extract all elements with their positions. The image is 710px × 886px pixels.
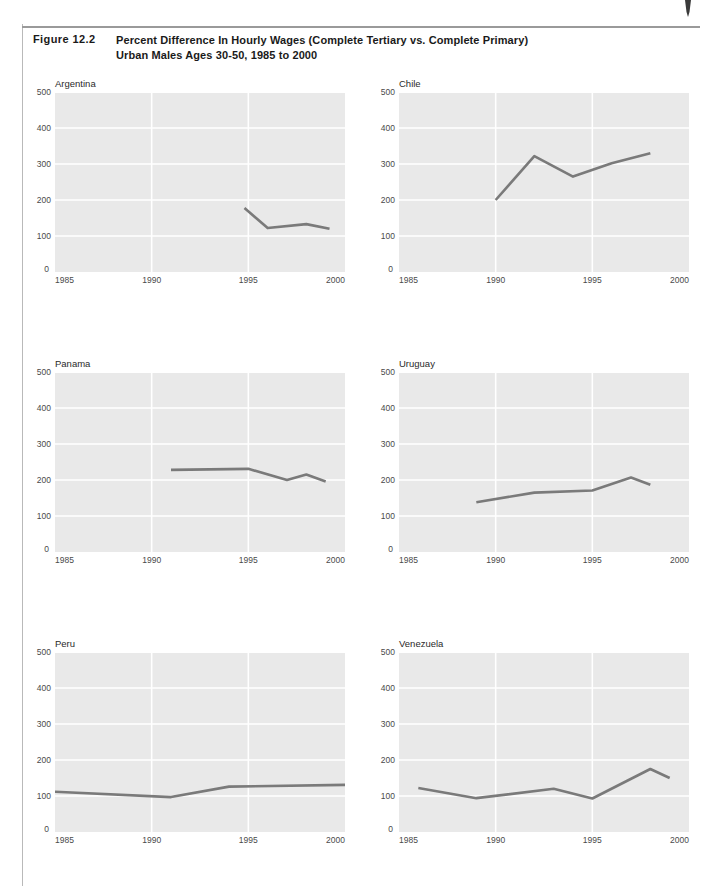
x-axis-tick-label: 1985 (55, 835, 74, 845)
y-axis-tick-label: 400 (381, 403, 395, 413)
chart-panel-title: Argentina (55, 78, 96, 89)
x-axis-tick-label: 2000 (326, 555, 345, 565)
x-axis-tick-label: 2000 (326, 275, 345, 285)
x-axis-tick-label: 1985 (399, 835, 418, 845)
plot-wrapper: 50040030020010001985199019952000 (29, 652, 351, 852)
y-axis-tick-label: 500 (37, 647, 51, 657)
page-corner-marker (683, 0, 693, 18)
x-axis-tick-label: 1985 (399, 275, 418, 285)
y-axis-tick-label: 200 (381, 755, 395, 765)
plot-area (55, 372, 345, 552)
plot-area (55, 652, 345, 832)
y-axis-tick-label: 400 (381, 683, 395, 693)
y-axis-tick-label: 400 (37, 123, 51, 133)
chart-panel-uruguay: Uruguay50040030020010001985199019952000 (373, 358, 695, 573)
x-axis-tick-label: 2000 (670, 835, 689, 845)
x-axis-tick-label: 1995 (239, 555, 258, 565)
plot-wrapper: 50040030020010001985199019952000 (373, 92, 695, 292)
chart-panel-title: Uruguay (399, 358, 435, 369)
x-axis-tick-label: 1990 (486, 835, 505, 845)
y-axis-tick-label: 300 (381, 719, 395, 729)
y-axis-zero-label: 0 (388, 264, 393, 274)
left-border-rule (22, 24, 23, 886)
chart-panel-title: Chile (399, 78, 421, 89)
plot-wrapper: 50040030020010001985199019952000 (373, 652, 695, 852)
y-axis-zero-label: 0 (388, 544, 393, 554)
y-axis-zero-label: 0 (44, 824, 49, 834)
data-series-line (496, 153, 651, 200)
plot-area (399, 92, 689, 272)
y-axis-tick-label: 500 (37, 367, 51, 377)
x-axis-tick-label: 1990 (142, 555, 161, 565)
chart-panel-chile: Chile50040030020010001985199019952000 (373, 78, 695, 293)
figure-number: Figure 12.2 (33, 33, 116, 45)
y-axis-tick-label: 500 (381, 647, 395, 657)
x-axis-tick-label: 2000 (670, 275, 689, 285)
plot-area (399, 372, 689, 552)
y-axis-tick-label: 500 (381, 367, 395, 377)
x-axis-tick-label: 1995 (239, 275, 258, 285)
x-axis-tick-label: 1990 (142, 835, 161, 845)
y-axis-tick-label: 400 (381, 123, 395, 133)
x-axis-tick-label: 2000 (670, 555, 689, 565)
y-axis-tick-label: 200 (37, 475, 51, 485)
figure-heading: Figure 12.2 Percent Difference In Hourly… (33, 33, 693, 63)
y-axis-tick-label: 100 (37, 791, 51, 801)
x-axis-tick-label: 1985 (55, 555, 74, 565)
y-axis-tick-label: 100 (381, 231, 395, 241)
x-axis-tick-label: 1995 (583, 555, 602, 565)
y-axis-tick-label: 400 (37, 403, 51, 413)
data-series-line (476, 477, 650, 502)
y-axis-tick-label: 500 (37, 87, 51, 97)
x-axis-tick-label: 1990 (486, 555, 505, 565)
x-axis-tick-label: 1995 (583, 835, 602, 845)
y-axis-tick-label: 100 (381, 791, 395, 801)
y-axis-tick-label: 300 (381, 159, 395, 169)
plot-wrapper: 50040030020010001985199019952000 (29, 372, 351, 572)
chart-panel-peru: Peru50040030020010001985199019952000 (29, 638, 351, 853)
y-axis-tick-label: 500 (381, 87, 395, 97)
y-axis-tick-label: 200 (381, 475, 395, 485)
figure-title-line-2: Urban Males Ages 30-50, 1985 to 2000 (116, 48, 528, 63)
x-axis-tick-label: 1985 (399, 555, 418, 565)
y-axis-tick-label: 100 (381, 511, 395, 521)
chart-panel-title: Venezuela (399, 638, 443, 649)
figure-title-line-1: Percent Difference In Hourly Wages (Comp… (116, 33, 528, 48)
y-axis-tick-label: 300 (37, 719, 51, 729)
chart-panel-argentina: Argentina5004003002001000198519901995200… (29, 78, 351, 293)
plot-area (55, 92, 345, 272)
y-axis-tick-label: 300 (37, 159, 51, 169)
x-axis-tick-label: 1990 (486, 275, 505, 285)
y-axis-tick-label: 200 (381, 195, 395, 205)
y-axis-tick-label: 300 (381, 439, 395, 449)
y-axis-zero-label: 0 (44, 544, 49, 554)
plot-wrapper: 50040030020010001985199019952000 (29, 92, 351, 292)
plot-area (399, 652, 689, 832)
y-axis-tick-label: 200 (37, 755, 51, 765)
chart-panel-venezuela: Venezuela5004003002001000198519901995200… (373, 638, 695, 853)
figure-title: Percent Difference In Hourly Wages (Comp… (116, 33, 528, 63)
y-axis-tick-label: 100 (37, 231, 51, 241)
chart-panel-title: Peru (55, 638, 75, 649)
y-axis-tick-label: 100 (37, 511, 51, 521)
x-axis-tick-label: 1995 (239, 835, 258, 845)
x-axis-tick-label: 1985 (55, 275, 74, 285)
top-border-rule (22, 26, 700, 28)
x-axis-tick-label: 1990 (142, 275, 161, 285)
chart-panel-title: Panama (55, 358, 90, 369)
y-axis-tick-label: 400 (37, 683, 51, 693)
data-series-line (244, 208, 329, 229)
x-axis-tick-label: 1995 (583, 275, 602, 285)
y-axis-zero-label: 0 (388, 824, 393, 834)
plot-wrapper: 50040030020010001985199019952000 (373, 372, 695, 572)
chart-panel-panama: Panama50040030020010001985199019952000 (29, 358, 351, 573)
y-axis-tick-label: 200 (37, 195, 51, 205)
y-axis-tick-label: 300 (37, 439, 51, 449)
y-axis-zero-label: 0 (44, 264, 49, 274)
data-series-line (418, 769, 669, 799)
x-axis-tick-label: 2000 (326, 835, 345, 845)
